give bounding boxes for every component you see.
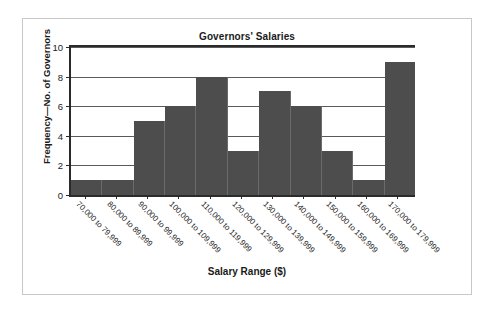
x-tick-label-cell: 150,000 to 159,999 — [319, 199, 350, 261]
x-tick-label-cell: 120,000 to 129,999 — [225, 199, 256, 261]
x-tick-label-cell: 110,000 to 119,999 — [194, 199, 225, 261]
bar — [353, 180, 384, 195]
y-tick-label: 2 — [58, 160, 63, 171]
x-axis-title: Salary Range ($) — [23, 266, 471, 277]
y-tick-label: 0 — [58, 190, 63, 201]
x-tick-label-cell: 70,000 to 79,999 — [69, 199, 100, 261]
x-tick-label-cell: 90,000 to 99,999 — [132, 199, 163, 261]
x-tick-label-cell: 170,000 to 179,999 — [382, 199, 413, 261]
x-axis-tick-labels: 70,000 to 79,99980,000 to 89,99990,000 t… — [69, 199, 413, 261]
bar — [322, 151, 353, 195]
x-tick-label: 170,000 to 179,999 — [387, 200, 442, 255]
x-tick-label-cell: 130,000 to 139,999 — [257, 199, 288, 261]
bars-layer — [71, 47, 415, 195]
bar — [165, 106, 196, 195]
plot-area: 0246810 — [69, 45, 415, 197]
y-axis-title: Frequency—No. of Governors — [41, 12, 52, 182]
bar — [259, 91, 290, 195]
x-tick-label-cell: 100,000 to 109,999 — [163, 199, 194, 261]
bar — [385, 62, 415, 195]
bar — [102, 180, 133, 195]
bar — [134, 121, 165, 195]
y-tick-label: 4 — [58, 130, 63, 141]
x-tick-label-cell: 140,000 to 149,999 — [288, 199, 319, 261]
x-tick-label-cell: 80,000 to 89,999 — [100, 199, 131, 261]
bar — [196, 77, 227, 195]
bar — [71, 180, 102, 195]
bar — [291, 106, 322, 195]
y-tick-label: 6 — [58, 101, 63, 112]
chart-title: Governors' Salaries — [23, 31, 471, 42]
bar — [228, 151, 259, 195]
y-tick-label: 10 — [52, 42, 63, 53]
x-tick-label-cell: 160,000 to 169,999 — [350, 199, 381, 261]
chart-figure-frame: Governors' Salaries Frequency—No. of Gov… — [22, 18, 472, 295]
y-tick-label: 8 — [58, 71, 63, 82]
